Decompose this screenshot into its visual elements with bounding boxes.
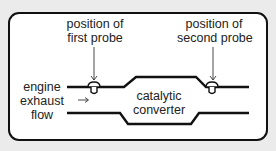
engine-label-line2: exhaust <box>18 94 66 108</box>
first-probe-pointer-icon <box>91 47 97 80</box>
first-probe-label: position of first probe <box>66 17 124 45</box>
second-probe-label-line2: second probe <box>177 31 251 45</box>
second-probe-pointer-icon <box>210 47 216 80</box>
engine-label-line3: flow <box>18 108 66 122</box>
converter-label-line2: converter <box>130 103 188 117</box>
engine-label-line1: engine <box>18 80 66 94</box>
engine-exhaust-flow-label: engine exhaust flow <box>18 80 66 122</box>
flow-right-arrow-icon <box>78 98 89 103</box>
second-probe-label-line1: position of <box>177 17 251 31</box>
first-probe-label-line2: first probe <box>66 31 124 45</box>
converter-label-line1: catalytic <box>130 89 188 103</box>
second-probe-label: position of second probe <box>177 17 251 45</box>
first-probe-label-line1: position of <box>66 17 124 31</box>
catalytic-converter-label: catalytic converter <box>130 89 188 117</box>
